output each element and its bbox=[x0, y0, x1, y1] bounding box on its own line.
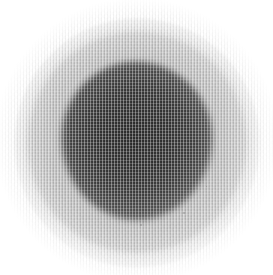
core-inner-mass bbox=[78, 80, 198, 206]
image-canvas bbox=[0, 0, 273, 275]
